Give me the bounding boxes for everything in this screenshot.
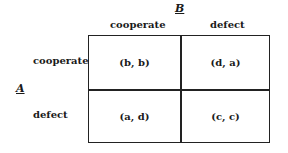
cell-cooperate-defect: (d, a) xyxy=(180,36,271,89)
cell-cooperate-cooperate: (b, b) xyxy=(89,36,180,89)
cell-defect-cooperate: (a, d) xyxy=(89,90,180,143)
cell-defect-defect: (c, c) xyxy=(180,90,271,143)
player-a-label: A xyxy=(16,82,25,95)
player-b-label: B xyxy=(175,2,184,15)
column-header-cooperate: cooperate xyxy=(110,19,166,30)
payoff-matrix: (b, b) (d, a) (a, d) (c, c) xyxy=(88,35,270,143)
row-header-defect: defect xyxy=(33,109,68,120)
row-header-cooperate: cooperate xyxy=(33,55,89,66)
column-header-defect: defect xyxy=(210,19,245,30)
